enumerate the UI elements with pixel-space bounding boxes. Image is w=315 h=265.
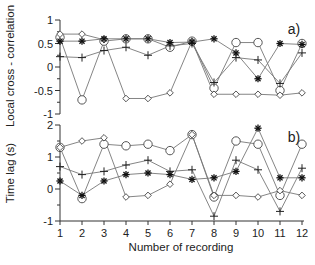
y-tick-label: -0.5 (34, 85, 53, 97)
diamond-marker (145, 95, 152, 102)
circle-marker (144, 140, 152, 148)
x-tick-label: 12 (296, 227, 308, 239)
series-line-plus (60, 44, 302, 84)
asterisk-marker (298, 174, 305, 181)
diamond-marker (123, 95, 130, 102)
x-tick-label: 10 (252, 227, 264, 239)
asterisk-marker (144, 35, 151, 42)
plus-marker (78, 54, 86, 62)
asterisk-marker (166, 39, 173, 46)
series-line-plus (60, 160, 302, 216)
asterisk-marker (122, 171, 129, 178)
diamond-marker (123, 194, 130, 201)
asterisk-marker (144, 169, 151, 176)
circle-marker (254, 140, 262, 148)
circle-marker (232, 137, 240, 145)
asterisk-marker (298, 41, 305, 48)
x-tick-label: 8 (211, 227, 217, 239)
asterisk-marker (100, 35, 107, 42)
circle-marker (232, 38, 240, 46)
plus-marker (100, 167, 108, 175)
diamond-marker (145, 192, 152, 199)
plus-marker (122, 43, 130, 51)
x-tick-label: 7 (189, 227, 195, 239)
asterisk-marker (232, 49, 239, 56)
diamond-marker (255, 194, 262, 201)
asterisk-marker (210, 174, 217, 181)
diamond-marker (79, 31, 86, 38)
diamond-marker (233, 91, 240, 98)
plus-marker (232, 156, 240, 164)
plus-marker (56, 53, 64, 61)
diamond-marker (101, 135, 108, 142)
y-tick-label: 0.5 (38, 38, 53, 50)
circle-marker (166, 146, 174, 154)
series-markers-plus (56, 40, 306, 88)
plus-marker (144, 156, 152, 164)
asterisk-marker (188, 38, 195, 45)
bottom-y-axis-title: Time lag (s) (4, 143, 16, 203)
asterisk-marker (100, 177, 107, 184)
circle-marker (78, 96, 86, 104)
x-tick-label: 2 (79, 227, 85, 239)
asterisk-marker (254, 75, 261, 82)
y-tick-label: 0 (47, 183, 53, 195)
plus-marker (254, 166, 262, 174)
asterisk-marker (188, 176, 195, 183)
asterisk-marker (276, 174, 283, 181)
asterisk-marker (254, 125, 261, 132)
panel-b-label: b) (288, 129, 300, 145)
plus-marker (188, 166, 196, 174)
chart: 10.50-0.5-1 210-1123456789101112 Local c… (0, 0, 315, 265)
x-tick-label: 9 (233, 227, 239, 239)
diamond-marker (79, 138, 86, 145)
asterisk-marker (56, 38, 63, 45)
circle-marker (254, 38, 262, 46)
diamond-marker (233, 192, 240, 199)
panel-a: 10.50-0.5-1 (34, 14, 306, 120)
asterisk-marker (78, 192, 85, 199)
y-tick-label: 1 (47, 14, 53, 26)
x-tick-label: 5 (145, 227, 151, 239)
plus-marker (78, 171, 86, 179)
x-tick-label: 1 (57, 227, 63, 239)
plus-marker (56, 163, 64, 171)
diamond-marker (167, 90, 174, 97)
series-line-diamond (60, 135, 302, 197)
asterisk-marker (56, 177, 63, 184)
panel-a-label: a) (288, 21, 300, 37)
y-tick-label: -1 (43, 215, 53, 227)
x-tick-label: 4 (123, 227, 129, 239)
asterisk-marker (122, 35, 129, 42)
circle-marker (122, 142, 130, 150)
series-line-circle (60, 135, 302, 199)
plus-marker (122, 161, 130, 169)
x-tick-label: 11 (274, 227, 285, 239)
plus-marker (276, 207, 284, 215)
y-tick-label: 1 (47, 151, 53, 163)
plus-marker (210, 212, 218, 220)
x-tick-label: 6 (167, 227, 173, 239)
diamond-marker (299, 192, 306, 199)
y-tick-label: 2 (47, 119, 53, 131)
asterisk-marker (276, 40, 283, 47)
plus-marker (298, 164, 306, 172)
diamond-marker (255, 91, 262, 98)
asterisk-marker (232, 168, 239, 175)
top-y-axis-title: Local cross - correlation (4, 5, 16, 127)
diamond-marker (299, 90, 306, 97)
asterisk-marker (210, 35, 217, 42)
x-axis-title: Number of recording (129, 241, 234, 253)
series-markers-circle (56, 130, 306, 202)
panel-b: 210-1123456789101112 (43, 119, 308, 239)
y-tick-label: 0 (47, 61, 53, 73)
diamond-marker (167, 181, 174, 188)
x-tick-label: 3 (101, 227, 107, 239)
series-markers-diamond (57, 131, 306, 200)
asterisk-marker (78, 38, 85, 45)
asterisk-marker (166, 171, 173, 178)
plus-marker (144, 51, 152, 59)
